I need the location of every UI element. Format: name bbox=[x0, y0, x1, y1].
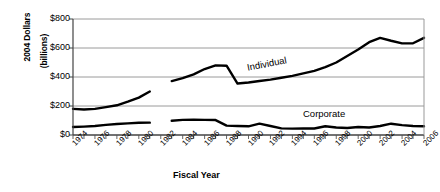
y-tick-label-400: $400 bbox=[28, 72, 70, 81]
series-line-corporate-seg0 bbox=[73, 123, 150, 127]
series-line-individual-seg0 bbox=[73, 92, 150, 110]
gridlines bbox=[69, 19, 424, 135]
data-series-group bbox=[73, 38, 424, 129]
series-line-corporate-seg1 bbox=[172, 120, 424, 129]
y-tick-label-0: $0 bbox=[28, 130, 70, 139]
x-axis-title: Fiscal Year bbox=[173, 170, 220, 180]
y-axis-tick-labels: $800 $600 $400 $200 $0 bbox=[26, 0, 70, 192]
y-tick-label-600: $600 bbox=[28, 43, 70, 52]
series-label-corporate: Corporate bbox=[303, 108, 345, 119]
y-tick-label-200: $200 bbox=[28, 101, 70, 110]
y-tick-label-800: $800 bbox=[28, 14, 70, 23]
